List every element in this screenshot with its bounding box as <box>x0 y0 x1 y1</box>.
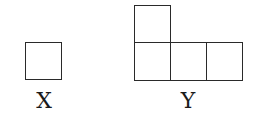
figure-x-square <box>25 42 62 80</box>
figure-y-square-bottom-3 <box>206 42 243 81</box>
figure-x-label: X <box>29 90 59 112</box>
diagram-canvas: X Y <box>0 0 259 125</box>
figure-y-square-bottom-2 <box>170 42 207 81</box>
figure-y-square-top <box>134 5 171 44</box>
figure-y-square-bottom-1 <box>134 42 171 81</box>
figure-y-label: Y <box>173 90 203 112</box>
